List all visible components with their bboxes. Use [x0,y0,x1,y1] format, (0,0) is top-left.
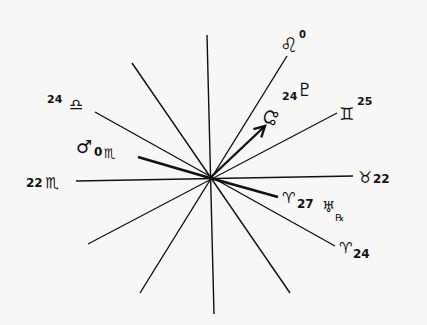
label-libra-24: 24 ♎ [47,93,83,114]
diagram-canvas: ♌ 0 ♇ ☊ 24 ♊ 25 24 ♎ ♂ 0 ♏ 22 ♏ ♉ 22 ♈ 2… [0,0,427,325]
scorpio-icon: ♏ [45,174,59,192]
uranus-icon: ♅ [322,198,335,216]
label-aries-24: ♈ 24 [339,239,370,261]
uranus-line [210,178,278,197]
degree: 24 [47,93,63,106]
retrograde-icon: ℞ [335,212,344,223]
label-scorpio-22: 22 ♏ [26,174,59,192]
arrow-shaft [210,126,265,178]
label-gemini-25: ♊ 25 [339,95,372,124]
label-mars-0-scorpio: ♂ 0 ♏ [76,136,116,161]
degree: 24 [353,247,370,261]
degree: 22 [26,176,43,190]
taurus-icon: ♉ [358,168,372,187]
degree: 27 [297,197,314,211]
degree: 0 [94,145,102,159]
label-aries-27-uranus: ♈ 27 ♅ ℞ [282,189,344,223]
leo-icon: ♌ [280,33,298,57]
mars-icon: ♂ [76,136,92,157]
libra-icon: ♎ [69,95,83,114]
label-node-24: ☊ 24 [258,90,298,128]
label-taurus-22: ♉ 22 [358,168,390,187]
degree: 22 [373,172,390,186]
label-leo-0: ♌ 0 [280,29,306,57]
degree: 24 [282,90,298,103]
north-node-icon: ☊ [258,106,283,128]
north-node-arrow [210,126,265,178]
pluto-icon: ♇ [297,79,313,100]
scorpio-icon: ♏ [104,146,116,161]
aries-icon: ♈ [282,189,295,207]
degree: 25 [357,95,372,108]
gemini-icon: ♊ [339,104,354,124]
degree: 0 [299,29,306,40]
aries-icon: ♈ [339,239,352,257]
aspect-wheel-diagram: ♌ 0 ♇ ☊ 24 ♊ 25 24 ♎ ♂ 0 ♏ 22 ♏ ♉ 22 ♈ 2… [0,0,427,325]
